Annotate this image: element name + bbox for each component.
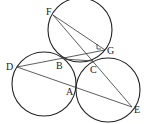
- point-label-D: D: [6, 61, 13, 72]
- point-label-C: C: [90, 64, 97, 75]
- circles: [12, 0, 140, 122]
- geometry-diagram: FGBCDAE: [0, 0, 144, 124]
- point-label-G: G: [107, 45, 114, 56]
- point-label-A: A: [66, 86, 74, 97]
- circle-top: [48, 0, 112, 62]
- point-label-B: B: [56, 60, 63, 71]
- circle-right: [76, 58, 140, 122]
- point-label-E: E: [134, 104, 140, 115]
- point-label-F: F: [46, 6, 52, 17]
